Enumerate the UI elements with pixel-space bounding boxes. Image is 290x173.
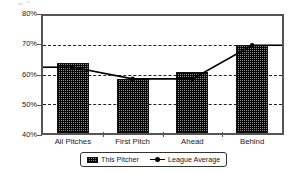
y-axis-tick-label: 80%: [0, 10, 37, 18]
y-axis-tick-label: 70%: [0, 40, 37, 48]
bar: [117, 79, 149, 133]
legend-label: League Average: [168, 156, 220, 164]
chart-container: 80% 70% 60% 50% 40% All PitchesFirst Pit…: [0, 0, 290, 173]
chart-legend: This Pitcher League Average: [80, 152, 227, 167]
legend-item-league-average: League Average: [150, 156, 220, 164]
y-axis-tick-label: 60%: [0, 71, 37, 79]
bar: [236, 45, 268, 133]
bar: [176, 72, 208, 133]
y-axis-tick-label: 40%: [0, 131, 37, 139]
y-axis-tick-label: 50%: [0, 101, 37, 109]
line-marker-icon: [150, 156, 165, 163]
plot-area: [41, 14, 284, 135]
y-axis-tick-mark: [37, 135, 42, 136]
bar: [57, 63, 89, 133]
scan-artifact: [27, 1, 30, 3]
legend-item-this-pitcher: This Pitcher: [87, 156, 139, 164]
legend-label: This Pitcher: [101, 156, 139, 164]
scan-artifact: [18, 3, 23, 5]
bar-swatch-icon: [87, 157, 98, 163]
x-axis-label: Behind: [212, 137, 290, 147]
